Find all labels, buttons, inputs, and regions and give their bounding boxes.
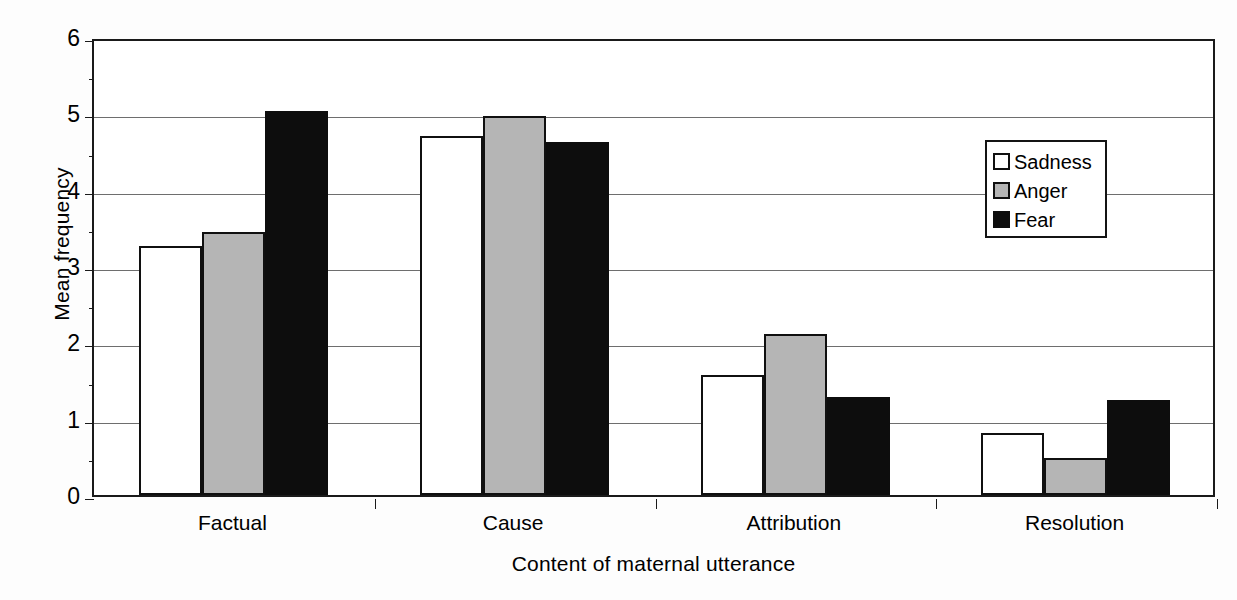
y-axis-tick-label: 4 <box>40 180 80 203</box>
y-axis-tick-label: 6 <box>40 27 80 50</box>
y-axis-minor-tick <box>89 156 94 157</box>
x-axis-tick-label: Factual <box>122 511 342 535</box>
bar-attribution-anger <box>764 334 827 495</box>
y-axis-minor-tick <box>89 385 94 386</box>
legend-swatch-sadness <box>993 153 1010 170</box>
legend-label-anger: Anger <box>1014 181 1067 201</box>
x-axis-tick <box>936 499 937 509</box>
y-axis-tick-label: 5 <box>40 103 80 126</box>
y-axis-tick-label: 1 <box>40 409 80 432</box>
legend-swatch-anger <box>993 182 1010 199</box>
plot-area: Sadness Anger Fear <box>92 39 1215 497</box>
bar-chart-figure: Mean frequency 0123456 Sadness Anger Fea… <box>0 0 1237 600</box>
y-axis-tick-label: 0 <box>40 485 80 508</box>
bar-cause-sadness <box>420 136 483 495</box>
bar-attribution-sadness <box>701 375 764 495</box>
x-axis-tick-label: Attribution <box>684 511 904 535</box>
legend-item-fear: Fear <box>993 205 1099 234</box>
legend: Sadness Anger Fear <box>985 140 1107 238</box>
y-axis-tick-label: 3 <box>40 256 80 279</box>
legend-item-anger: Anger <box>993 176 1099 205</box>
bar-resolution-sadness <box>981 433 1044 495</box>
bar-factual-fear <box>265 111 328 495</box>
bar-resolution-anger <box>1044 458 1107 495</box>
bar-factual-anger <box>202 232 265 495</box>
legend-item-sadness: Sadness <box>993 147 1099 176</box>
y-axis-minor-tick <box>89 232 94 233</box>
x-axis-tick-label: Resolution <box>965 511 1185 535</box>
bar-attribution-fear <box>827 397 890 495</box>
bar-factual-sadness <box>139 246 202 495</box>
gridline <box>94 117 1213 118</box>
y-axis-tick <box>85 117 94 118</box>
legend-swatch-fear <box>993 211 1010 228</box>
bar-cause-fear <box>546 142 609 495</box>
y-axis-tick-label: 2 <box>40 332 80 355</box>
bar-resolution-fear <box>1107 400 1170 495</box>
x-axis-tick <box>375 499 376 509</box>
y-axis-tick <box>85 194 94 195</box>
y-axis-minor-tick <box>89 308 94 309</box>
x-axis-tick <box>1217 499 1218 509</box>
bar-cause-anger <box>483 116 546 495</box>
legend-label-fear: Fear <box>1014 210 1055 230</box>
y-axis-tick <box>85 499 94 500</box>
x-axis-tick-label: Cause <box>403 511 623 535</box>
y-axis-tick <box>85 423 94 424</box>
y-axis-tick <box>85 270 94 271</box>
y-axis-tick <box>85 346 94 347</box>
y-axis-minor-tick <box>89 461 94 462</box>
x-axis-title: Content of maternal utterance <box>92 552 1215 576</box>
x-axis-tick <box>656 499 657 509</box>
y-axis-minor-tick <box>89 79 94 80</box>
legend-label-sadness: Sadness <box>1014 152 1092 172</box>
y-axis-tick <box>85 41 94 42</box>
